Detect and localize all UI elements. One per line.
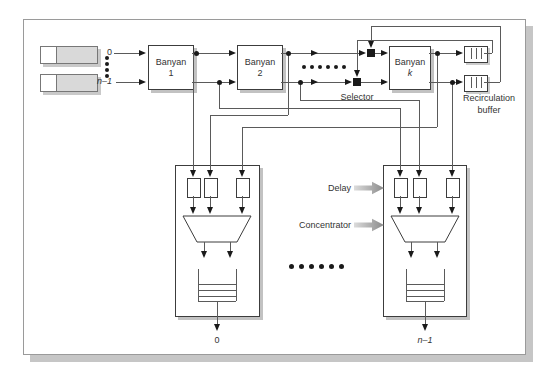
- arrowhead-down-icon: [354, 70, 360, 77]
- arrowhead-down-icon: [434, 251, 440, 258]
- wire: [411, 242, 412, 251]
- wire: [300, 100, 419, 101]
- wire: [481, 77, 482, 88]
- tandem-banyan-figure: 0 n–1 Banyan 1 Banyan 2 Banyan k Selecto…: [0, 0, 555, 374]
- wire: [230, 242, 231, 251]
- arrowhead-down-icon: [207, 170, 213, 177]
- wire: [288, 54, 289, 115]
- wire: [484, 82, 500, 83]
- arrowhead-down-icon: [416, 207, 422, 214]
- ellipsis-dot: [105, 62, 109, 66]
- tap-dot: [435, 51, 440, 56]
- wire: [198, 290, 236, 291]
- arrowhead-down-icon: [449, 170, 455, 177]
- tap-dot: [309, 264, 314, 269]
- wire: [419, 196, 420, 207]
- wire: [116, 82, 139, 83]
- wire: [476, 77, 477, 88]
- wire: [471, 48, 472, 59]
- ellipsis-dot: [105, 68, 109, 72]
- wire: [114, 53, 139, 54]
- wire: [419, 100, 420, 170]
- arrowhead-down-icon: [227, 251, 233, 258]
- ellipsis-dot: [318, 65, 322, 69]
- wire: [500, 26, 501, 82]
- arrowhead-right-icon: [139, 79, 146, 85]
- wire: [361, 82, 381, 83]
- wire: [406, 269, 407, 301]
- wire: [471, 77, 472, 88]
- wire: [481, 48, 482, 59]
- wire: [400, 108, 401, 170]
- wire: [476, 48, 477, 59]
- wire: [198, 284, 236, 285]
- arrowhead-down-icon: [201, 251, 207, 258]
- tap-dot: [450, 80, 455, 85]
- arrowhead-right-icon: [381, 79, 388, 85]
- arrowhead-down-icon: [190, 170, 196, 177]
- wire: [198, 296, 236, 297]
- arrowhead-down-icon: [397, 170, 403, 177]
- arrowhead-right-icon: [229, 50, 236, 56]
- tap-dot: [299, 264, 304, 269]
- tap-dot: [298, 80, 303, 85]
- ellipsis-dot: [310, 65, 314, 69]
- wire: [219, 108, 400, 109]
- tap-dot: [319, 264, 324, 269]
- arrowhead-down-icon: [408, 251, 414, 258]
- wire: [492, 40, 493, 53]
- wire: [406, 296, 444, 297]
- ellipsis-dot: [334, 65, 338, 69]
- tap-dot: [286, 51, 291, 56]
- wire: [400, 196, 401, 207]
- ellipsis-dot: [342, 65, 346, 69]
- wire: [210, 196, 211, 207]
- wire: [242, 127, 437, 128]
- wire: [429, 53, 456, 54]
- arrowhead-right-icon: [381, 50, 388, 56]
- arrowhead-down-icon: [207, 207, 213, 214]
- wire: [371, 26, 500, 27]
- ellipsis-dot: [105, 56, 109, 60]
- tap-dot: [217, 80, 222, 85]
- arrowhead-right-icon: [311, 79, 318, 85]
- arrowhead-right-icon: [345, 79, 352, 85]
- arrowhead-down-icon: [190, 207, 196, 214]
- arrowhead-down-icon: [239, 170, 245, 177]
- arrowhead-right-icon: [456, 79, 463, 85]
- wire: [437, 53, 438, 127]
- wire: [371, 26, 372, 41]
- wire: [204, 242, 205, 251]
- tap-dot: [194, 51, 199, 56]
- wire: [192, 82, 229, 83]
- wire: [217, 301, 218, 324]
- ellipsis-dot: [302, 65, 306, 69]
- tap-dot: [329, 264, 334, 269]
- wire: [406, 290, 444, 291]
- arrowhead-down-icon: [239, 207, 245, 214]
- wire: [210, 115, 211, 170]
- wire: [357, 40, 358, 70]
- ellipsis-dot: [326, 65, 330, 69]
- tap-dot: [289, 264, 294, 269]
- wiring: [0, 0, 555, 374]
- arrowhead-right-icon: [229, 79, 236, 85]
- arrowhead-down-icon: [416, 170, 422, 177]
- wire: [437, 242, 438, 251]
- wire: [484, 53, 492, 54]
- wire: [242, 196, 243, 207]
- wire: [210, 115, 288, 116]
- arrowhead-down-icon: [422, 324, 428, 331]
- wire: [425, 301, 426, 324]
- arrowhead-down-icon: [214, 324, 220, 331]
- wire: [198, 269, 199, 301]
- arrowhead-right-icon: [139, 50, 146, 56]
- arrowhead-right-icon: [456, 50, 463, 56]
- wire: [242, 127, 243, 170]
- wire: [444, 269, 445, 301]
- wire: [452, 82, 453, 170]
- wire: [406, 284, 444, 285]
- arrowhead-down-icon: [397, 207, 403, 214]
- wire: [357, 40, 492, 41]
- ellipsis-dot: [105, 74, 109, 78]
